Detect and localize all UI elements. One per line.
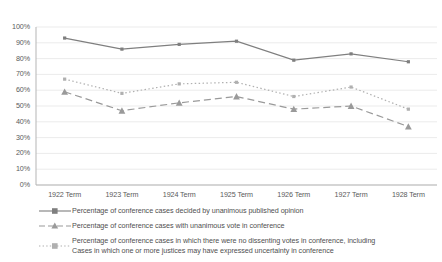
y-axis-tick-label: 100% [0,22,30,31]
dotted-line-square-marker-icon [38,235,72,247]
chart-svg [0,0,442,200]
x-axis-tick-label: 1924 Term [149,190,209,199]
legend-item-no-dissenting-votes[interactable]: Percentage of conference cases in which … [0,235,442,255]
legend-item-unanimous-vote-in-conference[interactable]: Percentage of conference cases with unan… [0,220,442,233]
chart-legend: Percentage of conference cases decided b… [0,205,442,257]
chart-container: 100%90%80%70%60%50%40%30%20%10%0% 1922 T… [0,0,442,262]
y-axis-tick-label: 40% [0,117,30,126]
legend-label-line1: Percentage of conference cases in which … [72,236,375,245]
y-axis-tick-label: 70% [0,69,30,78]
x-axis-tick-label: 1926 Term [264,190,324,199]
legend-label-line2: Cases in which one or more justices may … [72,246,375,256]
x-axis-tick-label: 1927 Term [321,190,381,199]
solid-line-square-marker-icon [38,205,72,217]
y-axis-tick-label: 90% [0,38,30,47]
legend-item-label: Percentage of conference cases with unan… [72,220,285,231]
legend-label-line1: Percentage of conference cases with unan… [72,221,285,230]
legend-item-label: Percentage of conference cases in which … [72,235,375,255]
legend-label-line1: Percentage of conference cases decided b… [72,206,304,215]
y-axis-tick-label: 10% [0,164,30,173]
x-axis-tick-label: 1928 Term [378,190,438,199]
y-axis-tick-label: 60% [0,85,30,94]
x-axis-tick-label: 1925 Term [207,190,267,199]
y-axis-tick-label: 30% [0,133,30,142]
y-axis-tick-label: 80% [0,54,30,63]
dashed-line-triangle-marker-icon [38,220,72,232]
plot-area: 100%90%80%70%60%50%40%30%20%10%0% 1922 T… [0,0,442,200]
y-axis-tick-label: 0% [0,180,30,189]
x-axis-tick-label: 1922 Term [35,190,95,199]
y-axis-tick-label: 50% [0,101,30,110]
legend-item-unanimous-published-opinion[interactable]: Percentage of conference cases decided b… [0,205,442,218]
y-axis-tick-label: 20% [0,148,30,157]
legend-item-label: Percentage of conference cases decided b… [72,205,304,216]
x-axis-tick-label: 1923 Term [92,190,152,199]
